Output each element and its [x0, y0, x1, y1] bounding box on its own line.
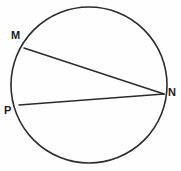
chord-m-n: [24, 48, 164, 94]
circle-outline: [11, 7, 167, 163]
point-label-n: N: [168, 87, 176, 98]
point-label-m: M: [11, 30, 20, 41]
geometry-canvas: [0, 0, 181, 171]
point-label-p: P: [4, 105, 11, 116]
circle-geometry-figure: M N P: [0, 0, 181, 171]
chord-p-n: [19, 94, 164, 105]
